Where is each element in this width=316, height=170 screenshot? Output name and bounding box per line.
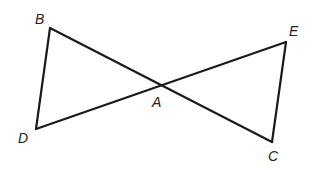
segment-bd (36, 28, 50, 129)
segment-de (36, 42, 286, 129)
vertex-label-d: D (18, 130, 28, 146)
geometry-diagram: B D A E C (0, 0, 316, 170)
vertex-label-e: E (289, 23, 299, 39)
vertex-label-b: B (35, 11, 44, 27)
vertex-label-a: A (151, 94, 161, 110)
segment-ec (272, 42, 286, 142)
vertex-label-c: C (268, 148, 279, 164)
